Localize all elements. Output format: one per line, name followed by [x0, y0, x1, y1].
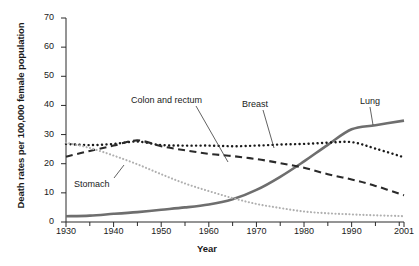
y-tick-label: 20 [28, 159, 54, 168]
x-axis-title: Year [0, 243, 414, 254]
x-tick-label: 1980 [284, 227, 324, 236]
series-label-lung: Lung [360, 96, 380, 106]
y-tick-label: 30 [28, 130, 54, 139]
y-tick-label: 70 [28, 13, 54, 22]
y-tick-label: 40 [28, 100, 54, 109]
x-tick-label: 1990 [332, 227, 372, 236]
x-tick-label: 1960 [189, 227, 229, 236]
series-label-stomach: Stomach [74, 179, 110, 189]
annotation-leader-breast [263, 110, 274, 148]
x-tick-label: 1940 [94, 227, 134, 236]
y-tick-label: 60 [28, 42, 54, 51]
annotation-leader-lung [370, 107, 373, 125]
x-tick-label: 1970 [236, 227, 276, 236]
x-tick-label: 2001 [384, 227, 419, 236]
x-tick-label: 1950 [141, 227, 181, 236]
annotation-leader-stomach [114, 165, 124, 178]
series-line-lung [66, 121, 404, 217]
series-label-colon-and-rectum: Colon and rectum [131, 95, 202, 105]
series-line-colon-and-rectum [66, 140, 404, 195]
series-label-breast: Breast [242, 99, 268, 109]
x-tick-label: 1930 [46, 227, 86, 236]
y-tick-label: 10 [28, 188, 54, 197]
y-axis-title: Death rates per 100,000 female populatio… [15, 1, 26, 231]
y-tick-label: 50 [28, 71, 54, 80]
y-tick-label: 0 [28, 217, 54, 226]
